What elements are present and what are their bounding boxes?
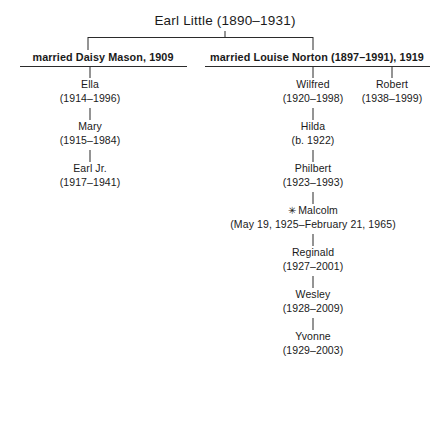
person-name: Robert xyxy=(362,79,423,90)
person-name: Mary xyxy=(60,121,121,132)
person-dates: (1920–1998) xyxy=(283,93,344,104)
person-name: Yvonne xyxy=(283,331,344,342)
person-node-yvonne: Yvonne (1929–2003) xyxy=(283,331,344,355)
right-child-stem-1 xyxy=(313,66,314,78)
left-child-stem-2 xyxy=(90,108,91,120)
person-dates: (1917–1941) xyxy=(60,177,121,188)
person-name: Reginald xyxy=(283,247,344,258)
person-dates: (May 19, 1925–February 21, 1965) xyxy=(230,219,395,230)
marriage-rule-right xyxy=(205,66,430,67)
person-name: Hilda xyxy=(292,121,335,132)
marriage-label-louise-norton: married Louise Norton (1897–1991), 1919 xyxy=(210,51,424,63)
root-person-label: Earl Little (1890–1931) xyxy=(154,13,295,28)
person-dates: (1929–2003) xyxy=(283,345,344,356)
person-node-hilda: Hilda (b. 1922) xyxy=(292,121,335,145)
person-dates: (1938–1999) xyxy=(362,93,423,104)
root-bracket-connector xyxy=(88,37,313,38)
marriage-rule-left xyxy=(20,66,187,67)
right-child-stem-3 xyxy=(313,150,314,162)
person-dates: (1914–1996) xyxy=(60,93,121,104)
person-node-robert: Robert (1938–1999) xyxy=(362,79,423,103)
person-node-philbert: Philbert (1923–1993) xyxy=(283,163,344,187)
person-dates: (1927–2001) xyxy=(283,261,344,272)
person-name-text: Malcolm xyxy=(298,204,338,216)
right-marriage-drop-connector xyxy=(313,37,314,50)
person-node-wilfred: Wilfred (1920–1998) xyxy=(283,79,344,103)
person-node-wesley: Wesley (1928–2009) xyxy=(283,289,344,313)
person-dates: (1928–2009) xyxy=(283,303,344,314)
person-dates: (1923–1993) xyxy=(283,177,344,188)
person-dates: (b. 1922) xyxy=(292,135,335,146)
person-name: ✳Malcolm xyxy=(230,205,395,216)
person-node-ella: Ella (1914–1996) xyxy=(60,79,121,103)
person-node-mary: Mary (1915–1984) xyxy=(60,121,121,145)
left-marriage-drop-connector xyxy=(88,37,89,50)
left-child-stem-3 xyxy=(90,150,91,162)
person-node-reginald: Reginald (1927–2001) xyxy=(283,247,344,271)
right-child-stem-7 xyxy=(313,318,314,330)
person-name: Earl Jr. xyxy=(60,163,121,174)
right-child-stem-6 xyxy=(313,276,314,288)
right-child-stem-5 xyxy=(313,234,314,246)
person-name: Philbert xyxy=(283,163,344,174)
family-tree-diagram: Earl Little (1890–1931) married Daisy Ma… xyxy=(0,0,448,448)
right-child-stem-4 xyxy=(313,192,314,204)
far-right-child-stem-1 xyxy=(392,66,393,78)
right-child-stem-2 xyxy=(313,108,314,120)
person-name: Ella xyxy=(60,79,121,90)
person-node-malcolm: ✳Malcolm (May 19, 1925–February 21, 1965… xyxy=(230,205,395,230)
person-name: Wilfred xyxy=(283,79,344,90)
marriage-label-daisy-mason: married Daisy Mason, 1909 xyxy=(32,51,173,63)
asterisk-icon: ✳ xyxy=(288,205,296,216)
left-child-stem-1 xyxy=(90,66,91,78)
person-dates: (1915–1984) xyxy=(60,135,121,146)
person-node-earl-jr: Earl Jr. (1917–1941) xyxy=(60,163,121,187)
person-name: Wesley xyxy=(283,289,344,300)
